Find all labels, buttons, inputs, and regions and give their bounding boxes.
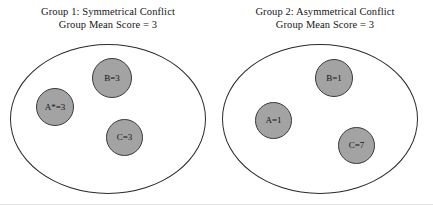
figure-canvas: Group 1: Symmetrical Conflict Group Mean… bbox=[0, 0, 433, 205]
group-1-title-line2: Group Mean Score = 3 bbox=[0, 18, 216, 31]
figure-bottom-rule bbox=[0, 204, 433, 205]
group-2-title-line2: Group Mean Score = 3 bbox=[217, 18, 433, 31]
group-2-node-c: C=7 bbox=[338, 127, 375, 164]
group-2-node-a: A=1 bbox=[255, 102, 292, 139]
group-panel-1: Group 1: Symmetrical Conflict Group Mean… bbox=[0, 0, 216, 205]
group-1-title: Group 1: Symmetrical Conflict Group Mean… bbox=[0, 5, 216, 31]
group-1-node-b-label: B=3 bbox=[104, 74, 120, 83]
group-2-node-b: B=1 bbox=[315, 59, 353, 97]
group-1-node-a-label: A*=3 bbox=[45, 103, 66, 112]
group-2-node-a-label: A=1 bbox=[265, 116, 281, 125]
group-2-node-b-label: B=1 bbox=[326, 74, 342, 83]
group-1-node-c-label: C=3 bbox=[117, 133, 133, 142]
group-1-node-b: B=3 bbox=[92, 58, 132, 98]
group-2-title: Group 2: Asymmetrical Conflict Group Mea… bbox=[217, 5, 433, 31]
group-1-node-a: A*=3 bbox=[36, 88, 74, 126]
group-1-node-c: C=3 bbox=[106, 119, 143, 156]
group-panel-2: Group 2: Asymmetrical Conflict Group Mea… bbox=[217, 0, 433, 205]
group-2-node-c-label: C=7 bbox=[349, 141, 365, 150]
group-1-title-line1: Group 1: Symmetrical Conflict bbox=[41, 6, 175, 17]
group-2-title-line1: Group 2: Asymmetrical Conflict bbox=[255, 6, 394, 17]
